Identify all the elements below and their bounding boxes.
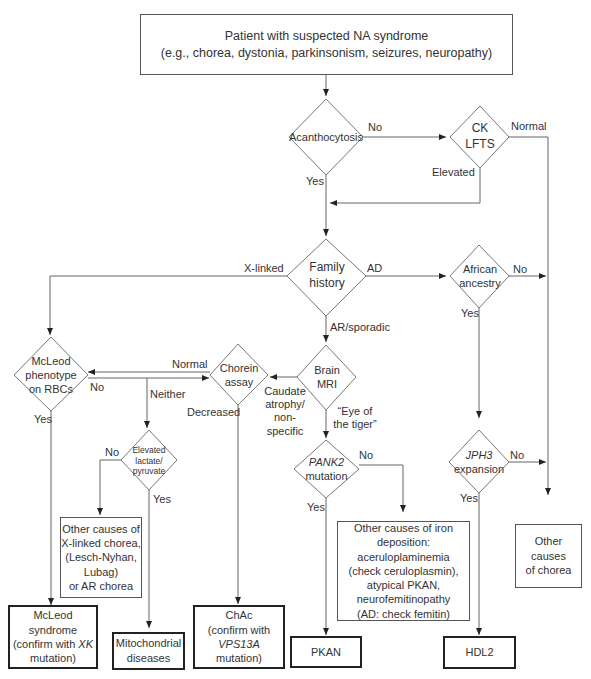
outcome-chac: ChAc (confirm with VPS13A mutation) — [193, 605, 285, 669]
pyruvate-label: pyruvate — [133, 466, 166, 477]
chac-line-4: mutation) — [216, 651, 262, 665]
edge-african-no: No — [513, 263, 527, 276]
edge-mri-eye: “Eye of the tiger” — [332, 405, 378, 431]
edge-chorein-normal: Normal — [172, 358, 207, 371]
mcleod-outcome-line-2: syndrome — [29, 623, 77, 637]
outcome-pkan: PKAN — [290, 636, 362, 668]
edge-pank2-yes: Yes — [307, 501, 325, 514]
edge-mri-caudate: Caudate atrophy/ non-specific — [256, 385, 314, 438]
start-line-2: (e.g., chorea, dystonia, parkinsonism, s… — [161, 45, 492, 62]
mcleod-label: McLeod — [31, 354, 70, 368]
edge-acanth-no: No — [368, 121, 382, 134]
hdl2-label: HDL2 — [465, 645, 493, 660]
edge-acanth-yes: Yes — [306, 175, 324, 188]
mcleod-outcome-line-1: McLeod — [33, 608, 72, 622]
other-causes-xlinked-box: Other causes of X-linked chorea, (Lesch-… — [60, 517, 142, 598]
mcleod-outcome-line-4: mutation) — [30, 651, 76, 665]
other-iron-line-3: aceruloplaminemia — [357, 550, 449, 564]
jph3-gene-label: JPH3 — [466, 448, 493, 462]
edge-fh-xlinked: X-linked — [244, 262, 284, 275]
mcleod-outcome-line-3: (confirm with XK — [13, 637, 93, 651]
pank2-gene-label: PANK2 — [309, 455, 344, 469]
chac-line-2: (confirm with — [208, 623, 270, 637]
pkan-label: PKAN — [311, 645, 341, 660]
vps13a-gene-label: VPS13A — [218, 637, 260, 651]
edge-fh-ad: AD — [367, 262, 382, 275]
edge-lactate-yes: Yes — [153, 493, 171, 506]
history-label: history — [309, 276, 344, 292]
ancestry-label: ancestry — [459, 276, 501, 290]
outcome-mitochondrial-diseases: Mitochondrial diseases — [112, 632, 185, 670]
edge-mcleod-yes: Yes — [34, 413, 52, 426]
edge-jph3-yes: Yes — [460, 492, 478, 505]
edge-chorein-neither: Neither — [150, 388, 185, 401]
other-xlinked-line-3: (Lesch-Nyhan, — [65, 550, 137, 564]
decision-elevated-lactate: Elevated lactate/ pyruvate — [121, 444, 177, 478]
elevated-label: Elevated — [132, 445, 165, 456]
other-xlinked-line-1: Other causes of — [62, 522, 140, 536]
other-iron-line-2: deposition: — [377, 535, 430, 549]
other-iron-line-6: neurofemitinopathy — [357, 592, 451, 606]
other-causes-iron-box: Other causes of iron deposition: acerulo… — [337, 521, 470, 621]
mcleod-confirm-text: (confirm with — [13, 638, 78, 650]
other-iron-line-4: (check ceruloplasmin), — [348, 564, 458, 578]
start-box: Patient with suspected NA syndrome (e.g.… — [140, 14, 513, 75]
decision-mcleod-phenotype: McLeod phenotype on RBCs — [14, 351, 88, 399]
on-rbcs-label: on RBCs — [29, 382, 73, 396]
edge-jph3-no: No — [510, 449, 524, 462]
edge-lactate-no: No — [105, 446, 119, 459]
other-chorea-line-2: of chorea — [526, 563, 572, 578]
edge-ck-normal: Normal — [511, 120, 546, 133]
family-label: Family — [309, 260, 344, 276]
lactate-label: lactate/ — [135, 456, 162, 467]
decision-acanthocytosis-label: Acanthocytosis — [289, 130, 363, 144]
mutation-label: mutation — [305, 469, 347, 483]
mitochondrial-line-2: diseases — [127, 651, 170, 666]
expansion-label: expansion — [454, 462, 504, 476]
xk-gene-label: XK — [78, 638, 93, 650]
chorein-label: Chorein — [220, 361, 259, 375]
decision-ck-lfts: CK LFTS — [450, 120, 510, 154]
other-xlinked-line-4: Lubag) — [84, 565, 118, 579]
lfts-label: LFTS — [465, 137, 494, 153]
edge-ck-elevated: Elevated — [432, 166, 475, 179]
decision-jph3-expansion: JPH3 expansion — [449, 446, 509, 478]
outcome-hdl2: HDL2 — [443, 636, 516, 669]
other-iron-line-1: Other causes of iron — [354, 521, 453, 535]
edge-chorein-decreased: Decreased — [187, 406, 240, 419]
african-label: African — [463, 262, 497, 276]
mri-label: MRI — [317, 377, 337, 391]
decision-african-ancestry: African ancestry — [450, 260, 510, 292]
decision-pank2-mutation: PANK2 mutation — [294, 453, 359, 485]
decision-acanthocytosis: Acanthocytosis — [289, 127, 363, 147]
outcome-mcleod-syndrome: McLeod syndrome (confirm with XK mutatio… — [8, 605, 98, 669]
other-xlinked-line-2: X-linked chorea, — [61, 536, 141, 550]
start-line-1: Patient with suspected NA syndrome — [225, 28, 429, 45]
ck-label: CK — [472, 121, 489, 137]
brain-label: Brain — [314, 363, 340, 377]
assay-label: assay — [225, 375, 254, 389]
other-chorea-line-1: Other causes — [516, 534, 581, 564]
phenotype-label: phenotype — [25, 368, 76, 382]
other-xlinked-line-5: or AR chorea — [69, 579, 133, 593]
edge-african-yes: Yes — [461, 307, 479, 320]
edge-mcleod-no: No — [90, 381, 104, 394]
other-causes-chorea-box: Other causes of chorea — [515, 524, 582, 588]
edge-pank2-no: No — [359, 449, 373, 462]
mitochondrial-line-1: Mitochondrial — [116, 636, 181, 651]
edge-fh-ar: AR/sporadic — [330, 321, 390, 334]
other-iron-line-5: atypical PKAN, — [367, 578, 440, 592]
decision-family-history: Family history — [290, 259, 364, 293]
other-iron-line-7: (AD: check femitin) — [357, 607, 450, 621]
chac-line-1: ChAc — [226, 608, 253, 622]
